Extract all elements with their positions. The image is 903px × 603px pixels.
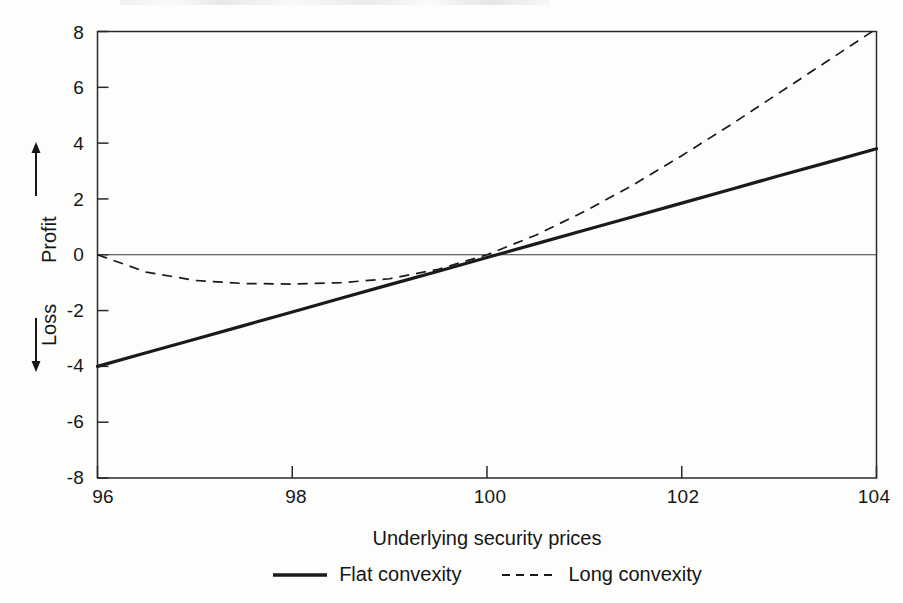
series-layer [98, 29, 877, 367]
series-long-convexity [98, 29, 877, 284]
series-flat-convexity [98, 149, 877, 367]
plot-area [0, 0, 903, 603]
y-axis-arrows [22, 142, 41, 372]
convexity-figure: Profit Loss 8 6 4 2 0 -2 -4 -6 -8 96 98 … [0, 0, 903, 603]
x-axis-ticks [98, 466, 877, 478]
